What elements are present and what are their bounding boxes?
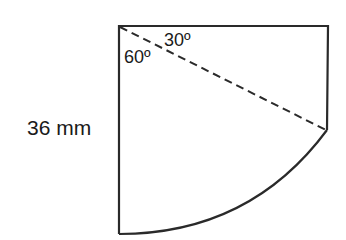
side-length-label: 36 mm (27, 117, 91, 138)
arc-edge (119, 130, 327, 234)
diagram-canvas: 36 mm 30º 60º (0, 0, 346, 240)
angle-60-label: 60º (124, 48, 151, 66)
angle-30-label: 30º (164, 31, 191, 49)
dashed-diagonal (120, 27, 326, 130)
